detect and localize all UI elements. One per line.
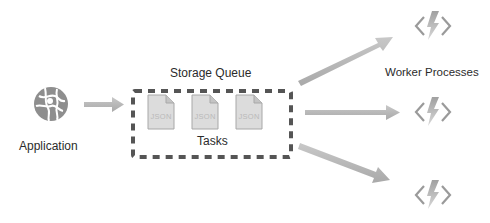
function-icon <box>416 180 450 209</box>
application-label: Application <box>19 139 78 153</box>
arrow-queue-to-worker-3 <box>298 143 390 183</box>
queue-title: Storage Queue <box>170 66 251 80</box>
svg-text:JSON: JSON <box>194 112 215 121</box>
json-doc-1: JSON <box>148 95 174 129</box>
function-icon <box>416 11 450 40</box>
diagram-canvas: JSON JSON JSON <box>0 0 490 223</box>
svg-text:JSON: JSON <box>238 112 259 121</box>
arrow-app-to-queue <box>84 97 124 112</box>
arrow-queue-to-worker-2 <box>305 105 400 120</box>
globe-icon <box>34 87 68 121</box>
json-doc-2: JSON <box>192 95 218 129</box>
queue-caption: Tasks <box>197 134 228 148</box>
function-icon <box>416 97 450 126</box>
svg-text:JSON: JSON <box>150 112 171 121</box>
arrow-queue-to-worker-1 <box>298 37 393 86</box>
workers-label: Worker Processes <box>385 66 479 78</box>
json-doc-3: JSON <box>236 95 262 129</box>
